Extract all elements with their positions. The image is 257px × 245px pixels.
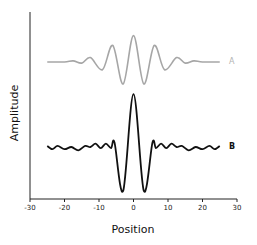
x-tick-label: -20 <box>59 204 70 212</box>
x-ticks: -30-20-100102030 <box>24 199 241 212</box>
series-label-a: A <box>229 57 235 66</box>
x-tick-label: 10 <box>164 204 173 212</box>
x-tick-label: -10 <box>93 204 104 212</box>
x-axis-title: Position <box>112 223 155 236</box>
x-tick-label: 0 <box>131 204 135 212</box>
series-line-b <box>47 94 220 192</box>
x-tick-label: -30 <box>24 204 35 212</box>
y-axis-title: Amplitude <box>8 85 21 142</box>
wave-chart: -30-20-100102030 A B Position Amplitude <box>0 0 257 245</box>
series-line-a <box>47 36 220 84</box>
x-tick-label: 30 <box>233 204 242 212</box>
plot-lines <box>47 36 220 192</box>
series-label-b: B <box>229 142 235 151</box>
x-tick-label: 20 <box>198 204 207 212</box>
